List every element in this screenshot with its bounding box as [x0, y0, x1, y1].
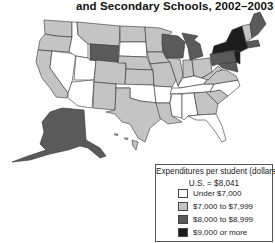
legend-item-under-7000: Under $7,000 [178, 189, 241, 198]
state-ma-ct [246, 40, 260, 48]
swatch-8000-8999 [178, 215, 188, 224]
legend-label: Under $7,000 [193, 189, 241, 198]
legend-title: Expenditures per student (dollars) [156, 167, 272, 177]
state-ny [212, 26, 248, 54]
state-mi [182, 33, 203, 60]
swatch-7000-7999 [178, 202, 188, 211]
state-co [94, 60, 126, 85]
state-ar [154, 86, 172, 103]
state-sd [119, 42, 147, 57]
state-wy [90, 44, 119, 63]
state-az [68, 80, 94, 108]
state-ms [170, 94, 182, 118]
swatch-9000-plus [178, 228, 188, 237]
legend-item-9000-plus: $9,000 or more [178, 228, 247, 237]
state-nm [93, 82, 116, 110]
legend-label: $7,000 to $7,999 [193, 202, 253, 211]
state-hi [114, 134, 138, 150]
swatch-under-7000 [178, 189, 188, 198]
legend-us-average: U.S. = $8,041 [156, 179, 272, 189]
state-ak [12, 108, 106, 162]
state-ks [125, 69, 154, 85]
state-or [38, 34, 72, 52]
legend-item-7000-7999: $7,000 to $7,999 [178, 202, 253, 211]
legend: Expenditures per student (dollars) U.S. … [155, 164, 273, 242]
legend-label: $8,000 to $8,999 [193, 215, 253, 224]
state-nd [120, 26, 146, 42]
legend-label: $9,000 or more [193, 228, 247, 237]
legend-item-8000-8999: $8,000 to $8,999 [178, 215, 253, 224]
state-me [250, 12, 266, 38]
state-fl [188, 114, 226, 142]
state-wi [162, 34, 185, 58]
